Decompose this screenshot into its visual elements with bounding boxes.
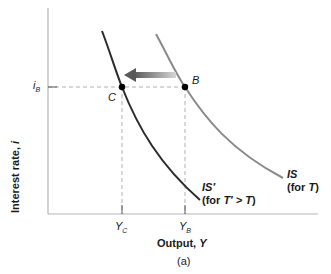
shift-left-arrow-icon bbox=[124, 68, 176, 82]
is-curve-label-condition: (for T) bbox=[287, 181, 319, 194]
point-c-label: C bbox=[108, 92, 116, 103]
y-tick-i-b: iB bbox=[33, 80, 40, 93]
is-prime-curve-label: IS′ (for T′ > T) bbox=[202, 181, 256, 207]
point-b-marker bbox=[182, 84, 188, 90]
y-axis-label: Interest rate, i bbox=[9, 141, 21, 213]
is-curve-shift-chart bbox=[0, 0, 331, 274]
x-tick-c-sub: C bbox=[122, 227, 127, 234]
y-tick-sub: B bbox=[35, 86, 40, 93]
is-curve-label-name: IS bbox=[287, 168, 319, 181]
isp-cond-pre: (for bbox=[202, 194, 223, 206]
is-prime-label-name: IS′ bbox=[202, 181, 256, 194]
is-curve-label: IS (for T) bbox=[287, 168, 319, 194]
x-tick-y-b: YB bbox=[179, 221, 191, 234]
isp-cond-var: T′ > T bbox=[223, 194, 252, 206]
figure-caption: (a) bbox=[177, 256, 190, 267]
x-axis-label-text: Output, bbox=[157, 237, 199, 249]
is-curve bbox=[156, 34, 283, 178]
y-axis-label-var: i bbox=[9, 141, 21, 144]
y-axis-label-text: Interest rate, bbox=[9, 144, 21, 213]
x-axis-label-var: Y bbox=[199, 237, 206, 249]
point-c-marker bbox=[119, 84, 125, 90]
x-axis-label: Output, Y bbox=[157, 238, 207, 249]
is-cond-pre: (for bbox=[287, 181, 308, 193]
is-prime-label-condition: (for T′ > T) bbox=[202, 194, 256, 207]
is-cond-post: ) bbox=[315, 181, 319, 193]
point-b-label: B bbox=[192, 75, 199, 86]
isp-cond-post: ) bbox=[252, 194, 256, 206]
x-tick-y-c: YC bbox=[115, 221, 127, 234]
x-tick-b-sub: B bbox=[186, 227, 191, 234]
